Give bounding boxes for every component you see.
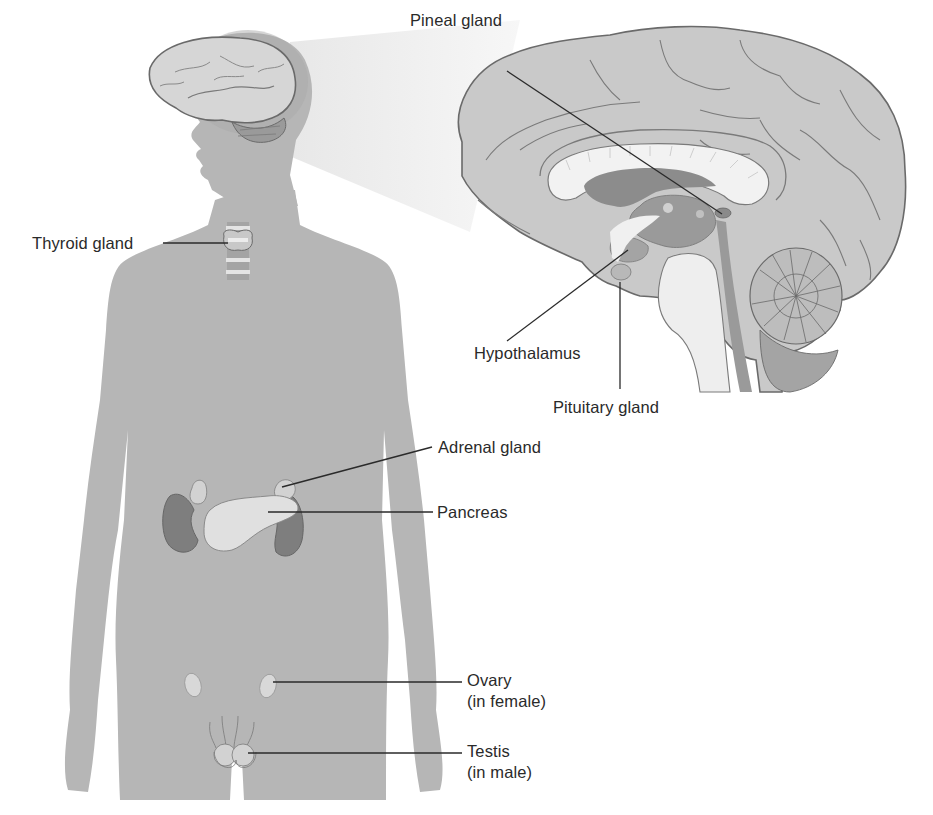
label-pancreas: Pancreas <box>437 502 508 523</box>
thyroid-icon <box>224 222 253 280</box>
pineal-gland-icon <box>715 208 731 218</box>
label-pituitary-gland: Pituitary gland <box>553 397 659 418</box>
label-ovary-name: Ovary <box>467 670 546 691</box>
label-ovary: Ovary (in female) <box>467 670 546 712</box>
pituitary-gland-icon <box>611 264 631 280</box>
label-pineal-gland: Pineal gland <box>410 10 502 31</box>
leader-hypothalamus <box>507 250 628 341</box>
large-brain-icon <box>459 27 906 392</box>
label-ovary-note: (in female) <box>467 691 546 712</box>
label-adrenal-gland: Adrenal gland <box>438 437 541 458</box>
label-hypothalamus: Hypothalamus <box>474 343 581 364</box>
label-testis-note: (in male) <box>467 762 532 783</box>
label-testis-name: Testis <box>467 741 532 762</box>
label-thyroid-gland: Thyroid gland <box>32 233 133 254</box>
label-testis: Testis (in male) <box>467 741 532 783</box>
